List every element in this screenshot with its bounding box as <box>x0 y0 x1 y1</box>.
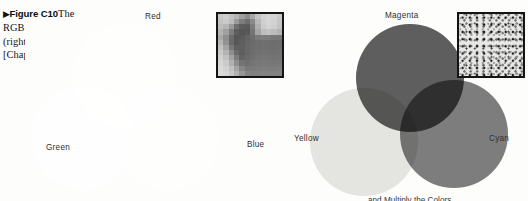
rgb-label-green: Green <box>46 143 70 152</box>
cmyk-label-magenta: Magenta <box>385 11 419 20</box>
rgb-label-red: Red <box>145 12 161 21</box>
figure-page: ▶Figure C10The RGB (left) and CMYK (righ… <box>0 0 528 201</box>
pixel-cell <box>277 71 282 76</box>
clipped-bottom-caption: and Multiply the Colors <box>368 196 518 201</box>
rgb-inset-pixelated-image <box>216 12 284 78</box>
halftone-pattern <box>459 14 523 76</box>
rgb-label-blue: Blue <box>247 140 264 149</box>
rgb-circle-blue <box>115 86 219 190</box>
cmyk-inset-halftone-image <box>457 12 525 78</box>
rgb-venn-diagram <box>25 18 225 196</box>
cmyk-label-cyan: Cyan <box>489 134 509 143</box>
pixel-grid <box>218 14 282 76</box>
cmyk-label-yellow: Yellow <box>294 134 319 143</box>
